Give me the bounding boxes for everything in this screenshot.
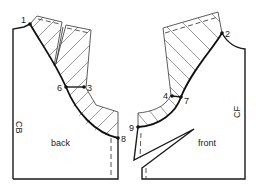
back-piece: 1 6 3 8 back CB	[13, 15, 128, 179]
front-neck-curve	[134, 33, 245, 179]
point-3	[82, 85, 86, 89]
back-armhole-curve	[30, 24, 118, 138]
point-1	[28, 22, 32, 26]
point-9	[136, 125, 140, 129]
front-label: front	[198, 138, 217, 148]
point-4-label: 4	[163, 91, 168, 101]
point-7-label: 7	[184, 96, 189, 106]
point-4	[170, 94, 174, 98]
cb-label: CB	[14, 121, 24, 134]
point-7	[179, 95, 183, 99]
back-outline	[13, 24, 30, 179]
back-shoulder-dash-1	[38, 19, 60, 24]
front-armhole-curve	[138, 33, 222, 127]
pattern-diagram: 1 6 3 8 back CB	[0, 0, 258, 193]
front-facing-hatch	[135, 12, 228, 128]
cf-label: CF	[232, 106, 242, 118]
point-6	[64, 85, 68, 89]
front-side-dash-upper	[140, 133, 141, 158]
point-2	[220, 31, 224, 35]
point-6-label: 6	[57, 83, 62, 93]
point-9-label: 9	[129, 123, 134, 133]
back-label: back	[51, 138, 71, 148]
front-piece: 2 4 7 9 front CF	[129, 12, 245, 179]
point-1-label: 1	[21, 15, 26, 25]
point-2-label: 2	[225, 29, 230, 39]
point-8	[116, 136, 120, 140]
point-3-label: 3	[87, 83, 92, 93]
point-8-label: 8	[121, 134, 126, 144]
